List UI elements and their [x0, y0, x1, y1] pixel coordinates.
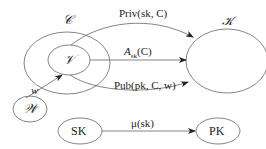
diagram: 𝒞 𝒱 𝒦 𝒲 SK PK Priv(sk, C) Ask(C) Pub(pk,…	[0, 0, 266, 149]
label-a-sk: Ask(C)	[124, 46, 152, 60]
label-a-main: A	[124, 45, 131, 57]
label-set-v: 𝒱	[64, 53, 75, 66]
priv-arrow	[71, 23, 193, 45]
label-priv: Priv(sk, C)	[119, 8, 167, 19]
label-w: w	[31, 85, 38, 96]
label-a-tail: (C)	[137, 45, 152, 57]
label-set-w: 𝒲	[23, 102, 37, 115]
set-k-ellipse	[186, 29, 266, 93]
label-set-c: 𝒞	[63, 13, 72, 26]
label-pub: Pub(pk, C, w)	[114, 80, 176, 91]
label-mu: μ(sk)	[131, 118, 154, 129]
label-pk: PK	[209, 125, 224, 137]
label-sk: SK	[71, 125, 86, 137]
label-set-k: 𝒦	[222, 15, 233, 27]
